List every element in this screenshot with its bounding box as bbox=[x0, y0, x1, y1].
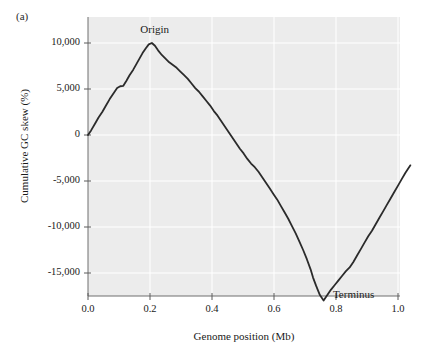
y-tick-label: 0 bbox=[18, 128, 80, 139]
y-tick-label: -10,000 bbox=[18, 220, 80, 231]
annotation-label: Terminus bbox=[333, 288, 374, 300]
plot-background bbox=[88, 17, 400, 296]
x-tick-label: 0.4 bbox=[192, 303, 232, 314]
x-tick-label: 1.0 bbox=[378, 303, 418, 314]
x-tick-label: 0.0 bbox=[68, 303, 108, 314]
x-tick-label: 0.6 bbox=[254, 303, 294, 314]
x-axis-label: Genome position (Mb) bbox=[88, 330, 400, 342]
y-tick-label: 10,000 bbox=[18, 36, 80, 47]
y-tick-label: 5,000 bbox=[18, 82, 80, 93]
x-tick-label: 0.2 bbox=[130, 303, 170, 314]
x-tick-label: 0.8 bbox=[316, 303, 356, 314]
annotation-label: Origin bbox=[140, 23, 169, 35]
figure-panel-a: (a) Cumulative GC skew (%) Genome positi… bbox=[0, 0, 421, 360]
y-tick-label: -5,000 bbox=[18, 174, 80, 185]
panel-label: (a) bbox=[16, 10, 28, 22]
y-tick-label: -15,000 bbox=[18, 266, 80, 277]
